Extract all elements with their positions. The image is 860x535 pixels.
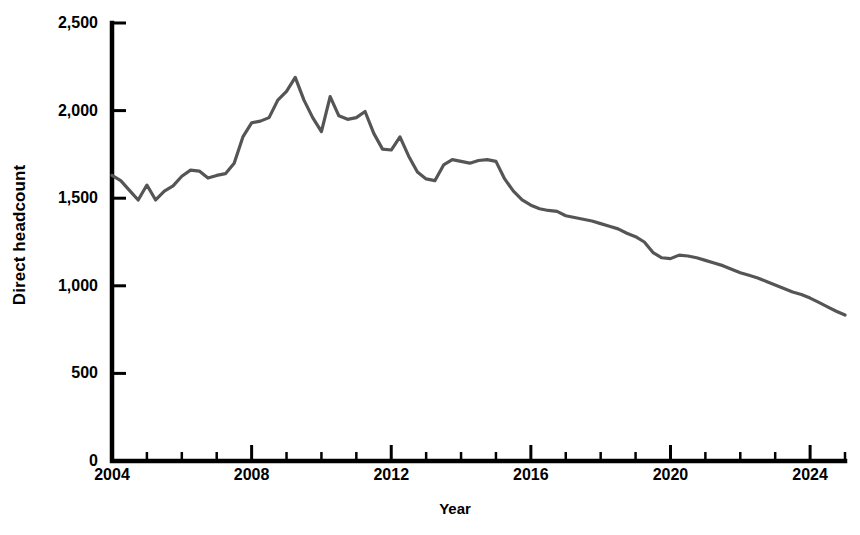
x-axis-tick-label: 2012 bbox=[373, 466, 409, 484]
x-axis-tick-labels: 200420082012201620202024 bbox=[0, 0, 860, 535]
x-axis-tick-label: 2004 bbox=[94, 466, 130, 484]
x-axis-tick-label: 2008 bbox=[234, 466, 270, 484]
chart-container: Direct headcount 05001,0001,5002,0002,50… bbox=[0, 0, 860, 535]
x-axis-tick-label: 2024 bbox=[792, 466, 828, 484]
x-axis-title-container: Year bbox=[0, 500, 860, 517]
x-axis-tick-label: 2020 bbox=[653, 466, 689, 484]
x-axis-tick-label: 2016 bbox=[513, 466, 549, 484]
x-axis-title: Year bbox=[439, 500, 471, 517]
